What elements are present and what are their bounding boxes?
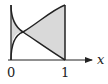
tick-label-0: 0: [7, 65, 15, 80]
tick-label-1: 1: [61, 65, 69, 80]
x-axis-label: x: [97, 52, 105, 67]
diagram: x 0 1: [0, 0, 108, 84]
shaded-region: [11, 5, 65, 60]
